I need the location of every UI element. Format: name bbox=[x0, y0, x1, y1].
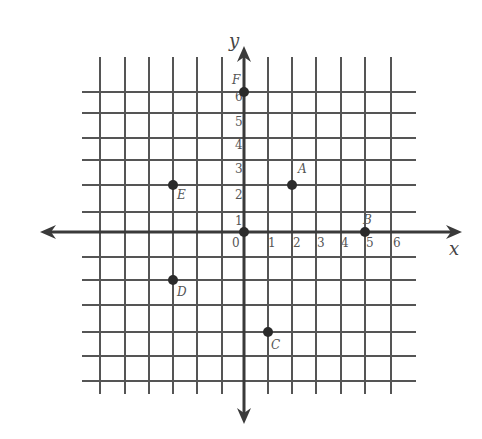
point-label-c: C bbox=[271, 338, 280, 352]
point-a bbox=[287, 180, 297, 190]
y-axis-label: y bbox=[228, 30, 240, 51]
y-tick-label: 3 bbox=[235, 162, 243, 176]
point-d bbox=[168, 275, 178, 285]
point-label-f: F bbox=[231, 73, 241, 87]
x-axis-label: x bbox=[449, 238, 459, 259]
x-tick-label: 3 bbox=[317, 236, 325, 250]
axes: x y bbox=[40, 30, 462, 424]
point-label-e: E bbox=[176, 188, 186, 202]
point-f bbox=[239, 87, 249, 97]
point-c bbox=[263, 327, 273, 337]
point-b bbox=[360, 227, 370, 237]
point-label-a: A bbox=[297, 162, 307, 176]
x-tick-label: 6 bbox=[393, 236, 401, 250]
x-tick-label: 5 bbox=[366, 236, 374, 250]
origin-point bbox=[239, 227, 249, 237]
y-tick-label: 5 bbox=[235, 115, 243, 129]
x-tick-label: 1 bbox=[268, 236, 276, 250]
coordinate-plane: x y 0 1 2 3 4 5 6 1 2 3 4 5 6 ABCDEF bbox=[0, 0, 482, 439]
y-tick-label: 2 bbox=[235, 188, 243, 202]
x-tick-labels: 0 1 2 3 4 5 6 bbox=[232, 236, 401, 250]
y-tick-label: 4 bbox=[235, 138, 243, 152]
point-label-b: B bbox=[362, 213, 372, 227]
x-tick-label: 2 bbox=[293, 236, 301, 250]
x-tick-label: 0 bbox=[232, 236, 240, 250]
y-tick-label: 1 bbox=[235, 214, 243, 228]
point-label-d: D bbox=[176, 285, 187, 299]
x-tick-label: 4 bbox=[341, 236, 349, 250]
